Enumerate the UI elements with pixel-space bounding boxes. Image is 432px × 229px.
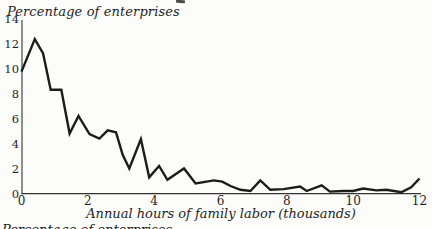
y-tick-label: 6 (12, 112, 19, 126)
y-tick-label: 8 (12, 87, 19, 101)
y-tick-label: 12 (4, 37, 19, 51)
y-tick-label: 14 (4, 12, 19, 26)
cropped-bottom-text: Percentage of enterprises (2, 222, 172, 229)
x-axis-title: Annual hours of family labor (thousands) (22, 206, 420, 221)
y-tick-label: 4 (12, 137, 19, 151)
data-series-line (22, 39, 420, 192)
chart-page: Percentage of enterprises 02468101214024… (0, 0, 432, 229)
y-tick-label: 10 (4, 62, 19, 76)
y-tick-label: 2 (12, 162, 19, 176)
line-chart: 02468101214024681012 (0, 0, 432, 229)
